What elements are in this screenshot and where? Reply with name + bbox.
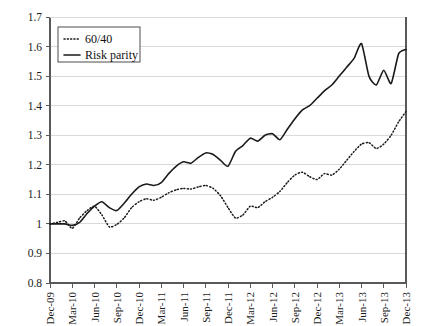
x-tick-label: Jun-10 — [89, 292, 101, 322]
x-tick-label: Sep-10 — [111, 292, 123, 324]
x-tick-label: Jun-11 — [178, 292, 190, 322]
x-tick-label: Dec-12 — [311, 292, 323, 324]
y-axis-tick-labels: 1.71.61.51.41.31.21.110.90.8 — [28, 11, 43, 289]
data-series — [50, 43, 406, 228]
series-line-risk-parity — [50, 43, 406, 225]
x-tick-label: Jun-13 — [356, 292, 368, 322]
y-tick-label: 1.4 — [28, 100, 43, 112]
y-tick-label: 1.2 — [28, 159, 43, 171]
x-tick-label: Mar-12 — [244, 292, 256, 325]
x-tick-label: Mar-11 — [155, 292, 167, 324]
y-tick-label: 1.1 — [28, 188, 43, 200]
y-tick-label: 0.8 — [28, 277, 43, 289]
y-tick-label: 0.9 — [28, 247, 43, 259]
x-tick-label: Sep-13 — [378, 292, 390, 324]
y-tick-label: 1.3 — [28, 129, 43, 141]
x-tick-label: Sep-12 — [289, 292, 301, 323]
y-tick-label: 1.7 — [28, 11, 43, 23]
x-tick-label: Sep-11 — [200, 292, 212, 323]
x-axis-tick-labels: Dec-09Mar-10Jun-10Sep-10Dec-10Mar-11Jun-… — [44, 292, 412, 325]
x-tick-label: Mar-10 — [66, 292, 78, 325]
y-tick-label: 1 — [36, 218, 42, 230]
x-tick-label: Dec-11 — [222, 292, 234, 324]
series-line-6040 — [50, 112, 406, 229]
y-tick-label: 1.6 — [28, 41, 43, 53]
x-tick-label: Dec-09 — [44, 292, 56, 325]
x-tick-label: Dec-13 — [400, 292, 412, 325]
x-tick-label: Jun-12 — [267, 292, 279, 322]
x-tick-label: Mar-13 — [333, 292, 345, 325]
line-chart: 1.71.61.51.41.31.21.110.90.8 Dec-09Mar-1… — [0, 0, 424, 326]
y-tick-label: 1.5 — [28, 70, 43, 82]
legend-label-risk-parity: Risk parity — [85, 48, 138, 62]
x-tick-label: Dec-10 — [133, 292, 145, 325]
chart-container: 1.71.61.51.41.31.21.110.90.8 Dec-09Mar-1… — [0, 0, 424, 326]
legend-label-6040: 60/40 — [85, 32, 112, 46]
chart-legend: 60/40Risk parity — [58, 27, 140, 62]
